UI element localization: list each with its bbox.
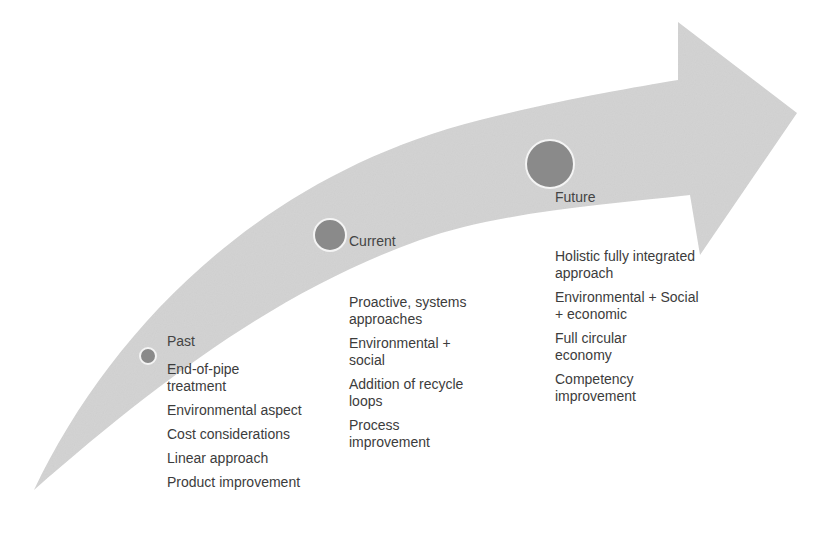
list-item: Environmental aspect (167, 402, 342, 419)
list-item: Full circular economy (555, 330, 655, 364)
list-item: Process improvement (349, 417, 459, 451)
list-item: Addition of recycle loops (349, 376, 494, 410)
list-item: Environmental + social (349, 335, 459, 369)
list-item: Proactive, systems approaches (349, 294, 504, 328)
current-node (313, 218, 347, 252)
list-item: Linear approach (167, 450, 342, 467)
past-label: Past (167, 333, 195, 349)
list-item: Environmental + Social + economic (555, 289, 705, 323)
future-node (525, 139, 575, 189)
current-list: Proactive, systems approaches Environmen… (349, 294, 504, 458)
future-label: Future (555, 189, 595, 205)
list-item: Competency improvement (555, 371, 655, 405)
list-item: Cost considerations (167, 426, 342, 443)
current-label: Current (349, 233, 396, 249)
list-item: End-of-pipe treatment (167, 361, 277, 395)
list-item: Product improvement (167, 474, 342, 491)
past-node (139, 347, 157, 365)
list-item: Holistic fully integrated approach (555, 248, 720, 282)
past-list: End-of-pipe treatment Environmental aspe… (167, 361, 342, 498)
future-list: Holistic fully integrated approach Envir… (555, 248, 720, 412)
